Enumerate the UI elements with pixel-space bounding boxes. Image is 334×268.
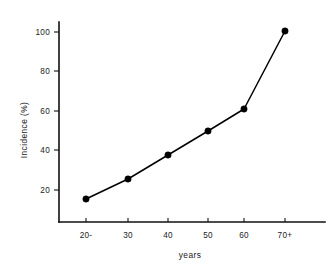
data-point-70-plus[interactable]: [282, 28, 288, 34]
y-tick-label-100: 100: [35, 28, 50, 37]
chart-figure: 100 80 60 40 20 Incidence (%) 20- 30 40 …: [0, 0, 334, 268]
data-point-60[interactable]: [241, 106, 247, 112]
data-point-40[interactable]: [165, 152, 171, 158]
x-tick-label-70-plus: 70+: [278, 231, 293, 240]
x-tick-label-20-minus: 20-: [80, 231, 93, 240]
data-point-50[interactable]: [205, 128, 211, 134]
y-tick-label-60: 60: [40, 107, 50, 116]
data-point-30[interactable]: [125, 176, 131, 182]
x-axis-title: years: [179, 250, 201, 260]
x-tick-label-50: 50: [203, 231, 213, 240]
chart-background: [0, 0, 334, 268]
x-tick-label-60: 60: [239, 231, 249, 240]
x-tick-label-30: 30: [123, 231, 133, 240]
data-point-20-minus[interactable]: [83, 196, 89, 202]
y-tick-label-80: 80: [40, 67, 50, 76]
y-axis-title: Incidence (%): [19, 102, 29, 158]
x-tick-label-40: 40: [163, 231, 173, 240]
y-tick-label-40: 40: [40, 146, 50, 155]
incidence-vs-years-line-chart: 100 80 60 40 20 Incidence (%) 20- 30 40 …: [0, 0, 334, 268]
y-tick-label-20: 20: [40, 186, 50, 195]
